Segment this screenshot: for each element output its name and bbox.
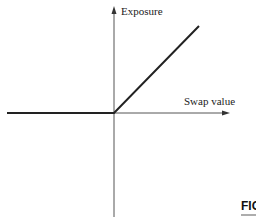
payoff-line bbox=[7, 26, 199, 113]
diagram-canvas bbox=[0, 0, 256, 219]
x-axis-arrow-icon bbox=[222, 111, 230, 116]
x-axis-label: Swap value bbox=[184, 95, 235, 107]
figure-caption-fragment bbox=[241, 214, 256, 216]
figure-label: FIG bbox=[241, 199, 256, 213]
y-axis-arrow-icon bbox=[112, 6, 117, 14]
y-axis-label: Exposure bbox=[121, 5, 163, 17]
exposure-diagram: Exposure Swap value bbox=[0, 0, 256, 219]
